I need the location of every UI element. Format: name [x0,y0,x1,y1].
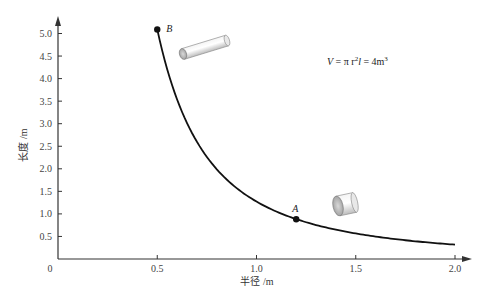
y-tick-label: 0.5 [40,231,53,242]
x-tick-label: 0.5 [151,263,164,274]
long-cylinder-icon [178,35,231,61]
y-tick-label: 2.5 [40,141,53,152]
short-cylinder-icon [331,192,360,217]
data-points: BA [154,23,299,222]
x-tick-label: 1.0 [250,263,263,274]
x-tick-label: 1.5 [350,263,363,274]
y-axis-label: 长度 /m [17,128,29,161]
point-label-a: A [291,203,299,214]
y-tick-label: 3.5 [40,96,53,107]
y-axis-arrow-icon [55,16,61,26]
x-axis-label: 半径 /m [240,275,273,287]
series-line [157,29,455,244]
formula-sup2: 3 [384,55,388,63]
y-tick-label: 4.5 [40,51,53,62]
y-tick-label: 5.0 [40,28,53,39]
x-ticks: 0.51.01.52.0 [151,255,461,274]
axes [55,16,472,262]
point-label-b: B [166,23,172,34]
formula-annotation: V = π r2l = 4m3 [327,55,388,67]
point-a [293,216,299,222]
formula-eq: = π r [333,56,355,67]
y-tick-label: 1.0 [40,208,53,219]
y-ticks: 0.51.01.52.02.53.03.54.04.55.0 [40,28,63,242]
formula-rhs: = 4m [361,56,385,67]
point-b [154,26,160,32]
chart: 0.51.01.52.0 0.51.01.52.02.53.03.54.04.5… [0,0,489,302]
y-tick-label: 2.0 [40,163,53,174]
y-tick-label: 3.0 [40,118,53,129]
y-tick-label: 1.5 [40,186,53,197]
x-tick-label: 2.0 [449,263,462,274]
y-tick-label: 4.0 [40,73,53,84]
x-axis-arrow-icon [462,256,472,262]
origin-label: 0 [48,263,53,274]
